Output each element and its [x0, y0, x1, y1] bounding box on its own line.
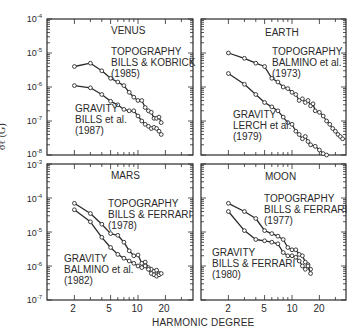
- data-point-marker: [227, 201, 231, 205]
- data-point-marker: [309, 143, 313, 147]
- data-point-marker: [311, 102, 315, 106]
- annotation-mars-gravity: GRAVITY BALMINO et al. (1982): [64, 253, 133, 286]
- data-point-marker: [89, 220, 93, 224]
- data-point-marker: [281, 238, 285, 242]
- panel-title-earth: EARTH: [265, 27, 299, 38]
- data-point-marker: [294, 93, 298, 97]
- data-point-marker: [270, 232, 274, 236]
- data-point-marker: [109, 246, 113, 250]
- x-axis-label: HARMONIC DEGREE: [152, 317, 254, 328]
- data-point-marker: [143, 264, 147, 268]
- series-source: BILLS & FERRARI: [264, 204, 347, 215]
- data-point-marker: [122, 84, 126, 88]
- series-source: BILLS & FERRARI: [212, 258, 295, 269]
- data-point-marker: [243, 229, 247, 233]
- ytick-label: 10-4: [12, 193, 42, 204]
- series-name: GRAVITY: [64, 253, 133, 264]
- series-year: (1973): [272, 68, 342, 79]
- series-source: BALMINO et al.: [272, 57, 342, 68]
- data-point-marker: [276, 242, 280, 246]
- data-point-marker: [132, 109, 136, 113]
- ytick-label: 10-5: [12, 47, 42, 58]
- ytick-label: 10-3: [12, 159, 42, 170]
- ytick-label: 10-6: [12, 81, 42, 92]
- data-point-marker: [136, 264, 140, 268]
- series-name: TOPOGRAPHY: [272, 46, 342, 57]
- data-point-marker: [254, 93, 258, 97]
- data-point-marker: [276, 234, 280, 238]
- ytick-label: 10-8: [12, 148, 42, 159]
- data-point-marker: [313, 144, 317, 148]
- data-point-marker: [263, 101, 267, 105]
- series-name: TOPOGRAPHY: [264, 193, 347, 204]
- xtick-label: 10: [282, 303, 302, 314]
- data-point-marker: [136, 253, 140, 257]
- annotation-moon-topography: TOPOGRAPHY BILLS & FERRARI (1977): [264, 193, 347, 226]
- data-point-marker: [270, 240, 274, 244]
- xtick-label: 5: [254, 303, 274, 314]
- data-point-marker: [321, 114, 325, 118]
- annotation-earth-gravity: GRAVITY LERCH et al. (1979): [233, 109, 291, 142]
- data-point-marker: [294, 129, 298, 133]
- data-point-marker: [100, 235, 104, 239]
- xtick-label: 2: [218, 303, 238, 314]
- xtick-label: 20: [309, 303, 329, 314]
- series-source: BILLS & FERRARI: [108, 209, 191, 220]
- data-point-marker: [73, 65, 77, 69]
- ytick-label: 10-7: [12, 294, 42, 305]
- data-point-marker: [281, 85, 285, 89]
- ytick-label: 10-7: [12, 115, 42, 126]
- series-name: GRAVITY: [212, 247, 295, 258]
- series-year: (1977): [264, 215, 347, 226]
- data-point-marker: [147, 267, 151, 271]
- data-point-marker: [136, 114, 140, 118]
- data-point-marker: [303, 135, 307, 139]
- ytick-label: 10-6: [12, 261, 42, 272]
- data-point-marker: [100, 93, 104, 97]
- data-point-marker: [243, 56, 247, 60]
- xtick-label: 20: [154, 303, 174, 314]
- data-point-marker: [227, 72, 231, 76]
- panel-title-mars: MARS: [111, 170, 140, 181]
- data-point-marker: [159, 272, 163, 276]
- data-point-marker: [301, 97, 305, 101]
- data-point-marker: [122, 240, 126, 244]
- data-point-marker: [89, 212, 93, 216]
- series-name: GRAVITY: [233, 109, 291, 120]
- data-point-marker: [159, 121, 163, 125]
- annotation-venus-topography: TOPOGRAPHY BILLS & KOBRICK (1985): [111, 46, 195, 79]
- data-point-marker: [100, 69, 104, 73]
- xtick-label: 10: [127, 303, 147, 314]
- data-point-marker: [325, 119, 329, 123]
- ytick-label: 10-5: [12, 227, 42, 238]
- series-name: TOPOGRAPHY: [111, 46, 195, 57]
- xtick-label: 2: [63, 303, 83, 314]
- data-point-marker: [73, 208, 77, 212]
- data-point-marker: [89, 86, 93, 90]
- y-axis-label: σℓ (G): [0, 123, 7, 150]
- series-name: TOPOGRAPHY: [108, 198, 191, 209]
- data-point-marker: [149, 110, 153, 114]
- series-source: BILLS & KOBRICK: [111, 57, 195, 68]
- data-point-marker: [297, 133, 301, 137]
- data-point-marker: [303, 267, 307, 271]
- data-point-marker: [290, 90, 294, 94]
- data-point-marker: [143, 106, 147, 110]
- data-point-marker: [116, 233, 120, 237]
- series-source: LERCH et al.: [233, 120, 291, 131]
- series-year: (1979): [233, 131, 291, 142]
- data-point-marker: [254, 238, 258, 242]
- panel-title-moon: MOON: [265, 171, 296, 182]
- data-point-marker: [159, 133, 163, 137]
- ytick-label: 10-4: [12, 13, 42, 24]
- data-point-marker: [318, 148, 322, 152]
- data-point-marker: [263, 65, 267, 69]
- data-point-marker: [116, 80, 120, 84]
- data-point-marker: [313, 109, 317, 113]
- data-point-marker: [127, 109, 131, 113]
- series-year: (1985): [111, 68, 195, 79]
- data-point-marker: [263, 229, 267, 233]
- data-point-marker: [263, 239, 267, 243]
- annotation-venus-gravity: GRAVITY BILLS et al. (1987): [75, 103, 127, 136]
- series-year: (1982): [64, 275, 133, 286]
